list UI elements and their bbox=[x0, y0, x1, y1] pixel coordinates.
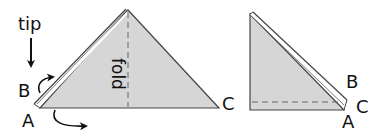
tip-label: tip bbox=[18, 13, 41, 34]
corner-label-c: C bbox=[222, 93, 235, 114]
paper-triangle bbox=[40, 10, 219, 108]
corner-label-a: A bbox=[342, 111, 355, 132]
corner-label-b: B bbox=[18, 80, 30, 101]
corner-label-a: A bbox=[22, 110, 35, 131]
a-curve-arrow-icon bbox=[54, 110, 86, 126]
b-curve-arrow-icon bbox=[39, 77, 53, 93]
fold-label: fold bbox=[108, 58, 128, 90]
right-figure: B C A bbox=[250, 12, 369, 132]
folding-diagram: fold tip B A C B C A bbox=[0, 0, 384, 138]
corner-label-b: B bbox=[346, 71, 358, 92]
left-figure: fold tip B A C bbox=[18, 9, 235, 131]
corner-label-c: C bbox=[356, 96, 369, 117]
